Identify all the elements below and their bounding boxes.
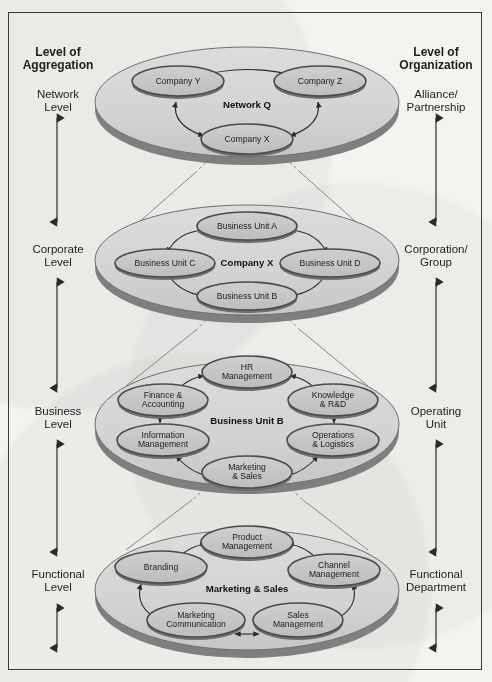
figure-frame — [8, 12, 482, 670]
figure-canvas: Company Y Company Z Company X Network Q — [0, 0, 492, 682]
